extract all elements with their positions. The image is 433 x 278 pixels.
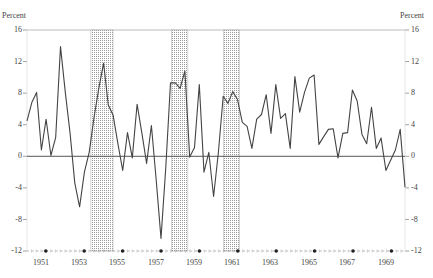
x-tick: 1953 [64,258,94,267]
y-tick-right: 0 [411,151,431,160]
y-tick-right: -12 [411,246,431,255]
data-series-line [27,47,405,239]
x-year-marker [198,249,202,253]
recession-shading [223,30,239,251]
x-tick: 1959 [179,258,209,267]
x-year-marker [82,249,86,253]
y-tick-right: 4 [411,120,431,129]
y-tick-left: -12 [2,246,22,255]
x-year-marker [274,249,278,253]
y-axis-label-left: Percent [2,11,26,20]
y-tick-right: 8 [411,88,431,97]
x-tick: 1961 [217,258,247,267]
y-tick-left: -4 [2,183,22,192]
x-year-marker [121,249,125,253]
x-tick: 1965 [294,258,324,267]
x-year-marker [351,249,355,253]
recession-shading [172,30,188,251]
y-tick-right: 16 [411,25,431,34]
y-tick-left: 16 [2,25,22,34]
y-tick-left: 4 [2,120,22,129]
y-tick-left: 0 [2,151,22,160]
x-tick: 1955 [102,258,132,267]
x-year-marker [313,249,317,253]
y-tick-left: -8 [2,215,22,224]
line-chart [0,0,433,278]
y-axis-label-right: Percent [400,11,424,20]
x-tick: 1967 [332,258,362,267]
x-tick: 1969 [371,258,401,267]
y-tick-left: 8 [2,88,22,97]
y-tick-right: -8 [411,215,431,224]
x-year-marker [44,249,48,253]
x-year-marker [236,249,240,253]
y-tick-right: 12 [411,57,431,66]
x-tick: 1951 [26,258,56,267]
recession-shading [91,30,113,251]
y-tick-right: -4 [411,183,431,192]
x-year-marker [159,249,163,253]
y-tick-left: 12 [2,57,22,66]
x-tick: 1963 [255,258,285,267]
x-year-marker [390,249,394,253]
x-tick: 1957 [141,258,171,267]
